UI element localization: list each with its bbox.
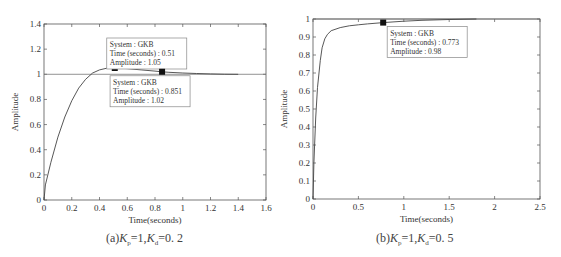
caption-b: (b)Kp=1,Kd=0. 5 — [376, 231, 454, 247]
caption-value: =0. 2 — [158, 231, 183, 245]
y-tick-label: 0 — [37, 195, 42, 205]
figure-b: 00.511.522.5Time(seconds)00.10.20.30.40.… — [280, 0, 561, 257]
step-response-plot-b: 00.511.522.5Time(seconds)00.10.20.30.40.… — [280, 0, 561, 228]
y-tick-label: 0.8 — [299, 50, 311, 60]
caption-prefix: (b) — [376, 231, 390, 245]
step-response-plot-a: 00.20.40.60.811.21.41.6Time(seconds)00.2… — [0, 0, 280, 228]
data-tip-marker[interactable] — [159, 69, 165, 75]
caption-a: (a)Kp=1,Kd=0. 2 — [106, 231, 183, 247]
x-tick-label: 1 — [181, 203, 186, 213]
y-tick-label: 0.3 — [299, 140, 311, 150]
data-tip-text: System : GKB — [390, 29, 434, 38]
y-axis-label: Amplitude — [10, 93, 20, 132]
y-tick-label: 0.2 — [30, 170, 41, 180]
data-tip-marker[interactable] — [380, 20, 386, 26]
data-tip-text: Amplitude : 0.98 — [390, 47, 441, 56]
x-tick-label: 2 — [492, 202, 497, 212]
caption-symbol: K — [147, 231, 155, 245]
x-tick-label: 0.5 — [353, 202, 365, 212]
x-tick-label: 1.6 — [260, 203, 272, 213]
caption-value: =0. 5 — [429, 231, 454, 245]
y-tick-label: 0.1 — [299, 176, 310, 186]
data-tip-text: Amplitude : 1.02 — [113, 96, 164, 105]
y-tick-label: 0.4 — [30, 145, 42, 155]
data-tip-text: Amplitude : 1.05 — [110, 58, 161, 67]
x-axis-label: Time(seconds) — [128, 215, 181, 225]
x-tick-label: 0 — [311, 202, 316, 212]
data-tip-text: Time (seconds) : 0.51 — [110, 49, 175, 58]
y-tick-label: 1.2 — [30, 44, 41, 54]
data-tip-text: Time (seconds) : 0.851 — [113, 87, 182, 96]
caption-prefix: (a) — [106, 231, 119, 245]
data-tip-text: Time (seconds) : 0.773 — [390, 38, 459, 47]
y-tick-label: 1 — [37, 69, 42, 79]
y-tick-label: 0.7 — [299, 68, 311, 78]
x-tick-label: 0.2 — [66, 203, 77, 213]
y-axis-label: Amplitude — [280, 90, 289, 129]
y-tick-label: 0.2 — [299, 158, 310, 168]
y-tick-label: 0.4 — [299, 122, 311, 132]
x-tick-label: 0 — [42, 203, 47, 213]
y-tick-label: 0.5 — [299, 104, 311, 114]
x-tick-label: 1.5 — [444, 202, 456, 212]
x-tick-label: 2.5 — [534, 202, 546, 212]
y-tick-label: 0.6 — [299, 86, 311, 96]
y-tick-label: 0.9 — [299, 32, 311, 42]
y-tick-label: 1.4 — [30, 19, 42, 29]
figure-a: 00.20.40.60.811.21.41.6Time(seconds)00.2… — [0, 0, 280, 257]
data-tip-text: System : GKB — [110, 40, 154, 49]
data-tip-text: System : GKB — [113, 78, 157, 87]
y-tick-label: 0.6 — [30, 120, 42, 130]
caption-value: =1, — [131, 231, 147, 245]
x-axis-label: Time(seconds) — [400, 214, 453, 224]
y-tick-label: 0 — [306, 194, 311, 204]
caption-value: =1, — [402, 231, 418, 245]
x-tick-label: 1.2 — [205, 203, 216, 213]
y-tick-label: 1 — [306, 14, 311, 24]
x-tick-label: 0.6 — [122, 203, 134, 213]
data-tip[interactable]: System : GKBTime (seconds) : 0.51Amplitu… — [107, 38, 187, 71]
x-tick-label: 1.4 — [233, 203, 245, 213]
x-tick-label: 0.8 — [149, 203, 161, 213]
y-tick-label: 0.8 — [30, 94, 42, 104]
x-tick-label: 1 — [402, 202, 407, 212]
x-tick-label: 0.4 — [94, 203, 106, 213]
data-tip[interactable]: System : GKBTime (seconds) : 0.773Amplit… — [380, 20, 467, 58]
caption-symbol: K — [390, 231, 398, 245]
